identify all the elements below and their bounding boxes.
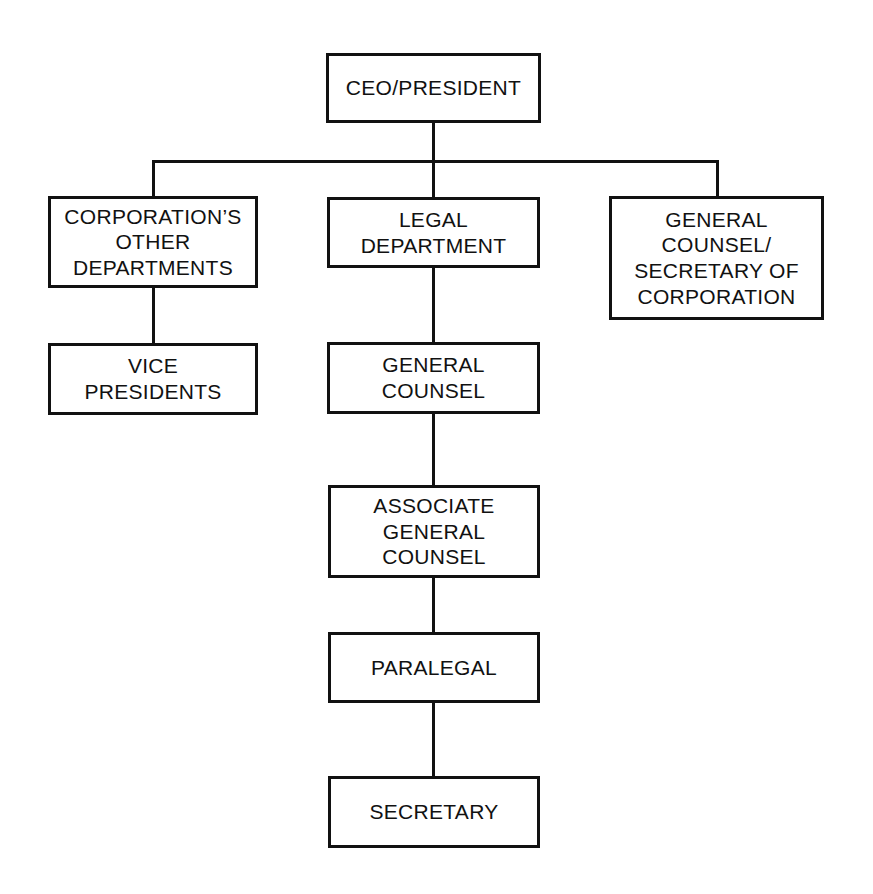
node-label-corporations-other-departments: CORPORATION’S OTHER DEPARTMENTS [58,204,247,281]
connector-associate-general-counsel-to-paralegal [432,576,435,634]
connector-drop-right [716,160,719,199]
connector-ceo-stem [432,120,435,163]
node-vice-presidents[interactable]: VICE PRESIDENTS [48,343,258,415]
node-paralegal[interactable]: PARALEGAL [328,632,540,703]
node-label-general-counsel-secretary-of-corporation: GENERAL COUNSEL/ SECRETARY OF CORPORATIO… [628,207,805,309]
node-corporations-other-departments[interactable]: CORPORATION’S OTHER DEPARTMENTS [48,196,258,288]
node-secretary[interactable]: SECRETARY [328,776,540,848]
node-associate-general-counsel[interactable]: ASSOCIATE GENERAL COUNSEL [328,485,540,578]
node-general-counsel[interactable]: GENERAL COUNSEL [327,342,540,414]
node-label-vice-presidents: VICE PRESIDENTS [78,353,227,404]
node-label-legal-department: LEGAL DEPARTMENT [355,207,513,258]
node-ceo-president[interactable]: CEO/PRESIDENT [326,53,541,123]
connector-paralegal-to-secretary [432,701,435,778]
org-chart-canvas: CEO/PRESIDENT CORPORATION’S OTHER DEPART… [0,0,873,894]
connector-general-counsel-to-associate-general-counsel [432,412,435,487]
node-general-counsel-secretary-of-corporation[interactable]: GENERAL COUNSEL/ SECRETARY OF CORPORATIO… [609,196,824,320]
node-label-associate-general-counsel: ASSOCIATE GENERAL COUNSEL [367,493,500,570]
node-label-general-counsel: GENERAL COUNSEL [376,352,492,403]
connector-other-departments-to-vice-presidents [152,286,155,345]
node-label-paralegal: PARALEGAL [365,655,503,681]
connector-legal-department-to-general-counsel [432,266,435,344]
node-label-ceo-president: CEO/PRESIDENT [340,75,527,101]
node-label-secretary: SECRETARY [363,799,504,825]
node-legal-department[interactable]: LEGAL DEPARTMENT [327,197,540,268]
connector-horizontal-bus [152,160,719,163]
connector-drop-left [152,160,155,198]
connector-drop-center [432,160,435,200]
